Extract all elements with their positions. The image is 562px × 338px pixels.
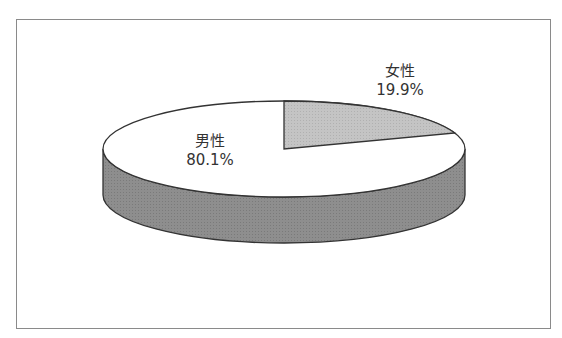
- label-female-pct: 19.9%: [360, 81, 440, 100]
- label-male-name: 男性: [170, 132, 250, 151]
- label-female: 女性 19.9%: [360, 62, 440, 100]
- label-male-pct: 80.1%: [170, 151, 250, 170]
- pie-chart: [0, 0, 562, 338]
- label-female-name: 女性: [360, 62, 440, 81]
- label-male: 男性 80.1%: [170, 132, 250, 170]
